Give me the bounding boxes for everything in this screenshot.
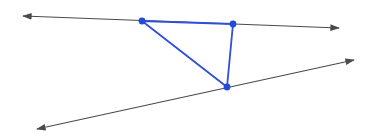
points bbox=[139, 18, 237, 91]
point-c bbox=[224, 84, 231, 91]
lower-line bbox=[37, 60, 354, 129]
point-b bbox=[230, 21, 237, 28]
triangle-outline bbox=[142, 21, 233, 87]
lines bbox=[23, 16, 354, 129]
diagram-canvas bbox=[0, 0, 373, 137]
triangle bbox=[142, 21, 233, 87]
point-a bbox=[139, 18, 146, 25]
